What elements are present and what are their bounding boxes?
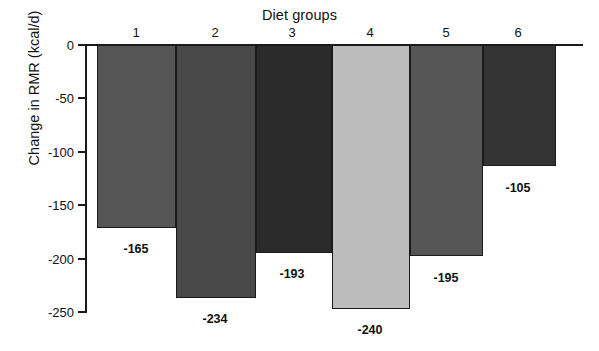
bar-1	[97, 45, 176, 228]
y-axis-tick	[78, 151, 86, 153]
y-axis-tick	[78, 258, 86, 260]
y-axis-line	[85, 44, 87, 313]
bar-value-label-3: -193	[279, 267, 304, 281]
bar-3	[256, 45, 332, 253]
group-label-2: 2	[211, 25, 218, 40]
y-axis-tick-label: 0	[0, 38, 74, 53]
bar-value-label-4: -240	[357, 323, 382, 337]
y-axis-tick	[78, 311, 86, 313]
group-label-5: 5	[442, 25, 449, 40]
bar-2	[176, 45, 256, 298]
y-axis-tick-label: -200	[0, 251, 74, 266]
bar-value-label-2: -234	[202, 312, 227, 326]
y-axis-tick	[78, 44, 86, 46]
y-axis-tick	[78, 204, 86, 206]
bar-4	[332, 45, 410, 309]
plot-area: 0-50-100-150-200-250 -165-234-193-240-19…	[0, 0, 599, 351]
group-label-4: 4	[366, 25, 373, 40]
bar-chart: Diet groups Change in RMR (kcal/d) 0-50-…	[0, 0, 599, 351]
bar-value-label-5: -195	[433, 271, 458, 285]
y-axis-tick-label: -50	[0, 91, 74, 106]
y-axis-tick	[78, 97, 86, 99]
group-label-1: 1	[132, 25, 139, 40]
group-label-3: 3	[288, 25, 295, 40]
bar-6	[483, 45, 556, 166]
y-axis-tick-label: -250	[0, 305, 74, 320]
bar-value-label-6: -105	[505, 181, 530, 195]
bar-5	[410, 45, 483, 256]
y-axis-tick-label: -150	[0, 198, 74, 213]
bar-value-label-1: -165	[123, 242, 148, 256]
y-axis-tick-label: -100	[0, 144, 74, 159]
group-label-6: 6	[514, 25, 521, 40]
